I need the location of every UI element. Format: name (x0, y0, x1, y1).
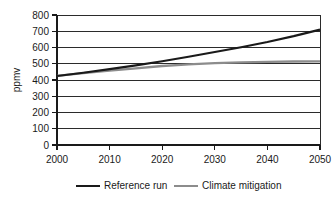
y-tick-label: 100 (32, 123, 49, 134)
x-tick-label: 2050 (309, 154, 332, 165)
y-axis-title: ppmv (11, 68, 22, 92)
x-tick-label: 2010 (98, 154, 121, 165)
y-tick-labels: 800 700 600 500 400 300 200 100 0 (32, 10, 49, 151)
x-tick-label: 2000 (46, 154, 69, 165)
x-tick-label: 2030 (204, 154, 227, 165)
y-tick-label: 700 (32, 26, 49, 37)
legend-label-climate-mitigation: Climate mitigation (202, 180, 281, 191)
data-series (57, 30, 320, 76)
y-tick-label: 800 (32, 10, 49, 21)
y-tick-label: 300 (32, 91, 49, 102)
x-tick-labels: 2000 2010 2020 2030 2040 2050 (46, 154, 332, 165)
x-tick-label: 2040 (256, 154, 279, 165)
y-tick-label: 600 (32, 42, 49, 53)
y-tick-label: 500 (32, 58, 49, 69)
legend: Reference run Climate mitigation (76, 180, 281, 191)
y-tick-label: 200 (32, 107, 49, 118)
line-chart: 800 700 600 500 400 300 200 100 0 2000 2… (0, 0, 336, 200)
chart-canvas: 800 700 600 500 400 300 200 100 0 2000 2… (0, 0, 336, 200)
y-tick-label: 400 (32, 75, 49, 86)
series-line-climate-mitigation (57, 30, 320, 76)
y-tick-label: 0 (43, 140, 49, 151)
legend-label-reference-run: Reference run (104, 180, 167, 191)
x-tick-label: 2020 (151, 154, 174, 165)
